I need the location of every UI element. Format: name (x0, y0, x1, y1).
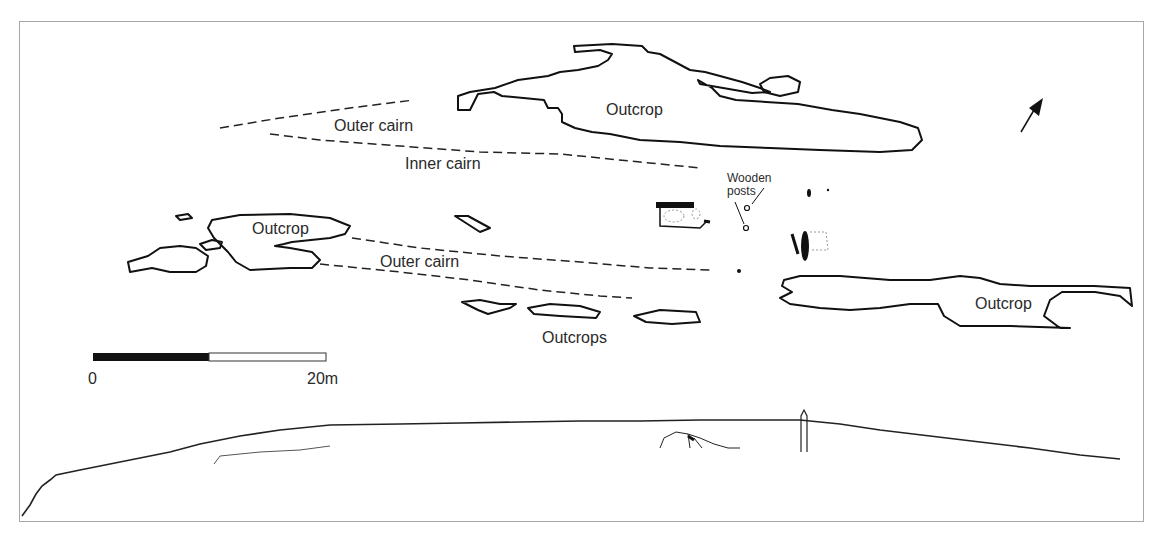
scale-start-label: 0 (88, 371, 97, 387)
outcrop-shape-right (780, 276, 1132, 328)
label-outcrop-top: Outcrop (606, 102, 663, 118)
outcrop-shape-left-small2 (200, 240, 222, 250)
scale-bar (93, 353, 326, 361)
outcrop-shape-bottom2 (528, 304, 600, 318)
north-arrow-icon (1021, 98, 1043, 132)
outcrop-shape-top (458, 44, 922, 152)
outcrop-shape-top-islet (760, 76, 800, 96)
outcrop-shape-bottom3 (634, 310, 700, 324)
outer-cairn-line-bottom-lower (320, 264, 632, 298)
outcrop-shape-bottom1 (462, 300, 516, 314)
site-plan-drawing (0, 0, 1154, 542)
elevation-profile (22, 410, 1120, 516)
outcrop-shape-mid-slab (455, 216, 490, 232)
label-outer-cairn-top: Outer cairn (334, 118, 413, 134)
central-tomb-features (656, 188, 829, 273)
label-outcrop-right: Outcrop (975, 296, 1032, 312)
label-inner-cairn: Inner cairn (405, 156, 481, 172)
label-posts: posts (727, 185, 756, 198)
label-outcrops: Outcrops (542, 330, 607, 346)
label-outer-cairn-bottom: Outer cairn (380, 254, 459, 270)
label-outcrop-left: Outcrop (252, 221, 309, 237)
outcrop-shape-left-small3 (176, 214, 192, 220)
scale-end-label: 20m (307, 371, 338, 387)
outcrop-shape-left-small1 (128, 246, 208, 272)
